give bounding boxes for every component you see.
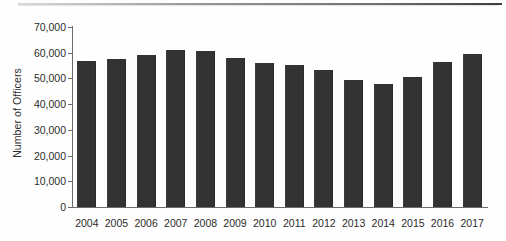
y-axis-tick-label: 30,000	[34, 124, 66, 136]
bar	[374, 84, 393, 207]
y-axis-tick-mark	[68, 78, 72, 79]
bar	[196, 51, 215, 207]
x-axis-tick-label: 2015	[401, 217, 424, 229]
y-axis-tick-label: 10,000	[34, 175, 66, 187]
bar	[314, 70, 333, 207]
y-axis-title: Number of Officers	[6, 48, 28, 178]
y-axis-tick-mark	[68, 130, 72, 131]
x-axis-tick-label: 2014	[372, 217, 395, 229]
y-axis-tick-mark	[68, 104, 72, 105]
bar	[403, 77, 422, 207]
bar	[137, 55, 156, 207]
x-axis-tick-label: 2012	[312, 217, 335, 229]
bar	[166, 50, 185, 207]
y-axis-tick-mark	[68, 53, 72, 54]
x-axis-tick-label: 2009	[223, 217, 246, 229]
y-axis-tick-mark	[68, 27, 72, 28]
x-axis-tick-label: 2017	[460, 217, 483, 229]
x-axis-tick-label: 2010	[253, 217, 276, 229]
bar	[344, 80, 363, 207]
y-axis-tick-label: 20,000	[34, 150, 66, 162]
x-axis-tick-label: 2013	[342, 217, 365, 229]
y-axis-title-label: Number of Officers	[11, 68, 23, 158]
x-axis-tick-label: 2007	[164, 217, 187, 229]
x-axis-tick-label: 2006	[134, 217, 157, 229]
y-axis-tick-label: 70,000	[34, 21, 66, 33]
paper-texture	[70, 208, 490, 218]
bar-chart-figure: Number of Officers 70,00060,00050,00040,…	[0, 0, 506, 241]
y-axis-tick-mark	[68, 156, 72, 157]
bar	[107, 59, 126, 207]
bar	[77, 61, 96, 207]
bar	[433, 62, 452, 207]
page-top-rule-shadow	[18, 5, 498, 6]
x-axis-tick-label: 2008	[194, 217, 217, 229]
x-axis-tick-label: 2005	[105, 217, 128, 229]
y-axis-tick-mark	[68, 181, 72, 182]
x-axis-tick-label: 2016	[431, 217, 454, 229]
bar	[285, 65, 304, 207]
bar	[255, 63, 274, 208]
x-axis-tick-label: 2011	[283, 217, 306, 229]
y-axis-tick-label: 0	[60, 201, 66, 213]
y-axis-tick-label: 60,000	[34, 47, 66, 59]
plot-area: 70,00060,00050,00040,00030,00020,00010,0…	[72, 27, 487, 207]
bar	[226, 58, 245, 207]
bar	[463, 54, 482, 207]
y-axis-tick-label: 40,000	[34, 98, 66, 110]
x-axis-tick-label: 2004	[75, 217, 98, 229]
y-axis-tick-label: 50,000	[34, 72, 66, 84]
